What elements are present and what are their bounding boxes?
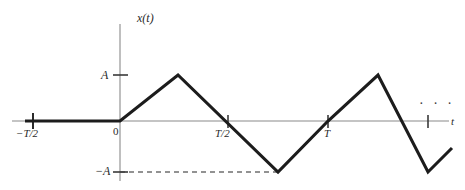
plot-canvas <box>0 0 465 190</box>
amplitude-positive-label: A <box>101 69 108 81</box>
tick-label-period: T <box>324 128 330 139</box>
tick-label-half-period: T/2 <box>215 128 230 139</box>
amplitude-negative-label: −A <box>95 165 110 177</box>
x-axis-label: t <box>451 116 454 127</box>
signal-waveform <box>25 75 452 172</box>
tick-label-neg-half-period: −T/2 <box>16 128 38 139</box>
continuation-ellipsis: · · · <box>419 97 455 111</box>
y-axis-label: x(t) <box>137 12 154 24</box>
triangular-wave-figure: x(t) t A −A 0 −T/2 T/2 T · · · <box>0 0 465 190</box>
origin-label: 0 <box>113 126 119 137</box>
